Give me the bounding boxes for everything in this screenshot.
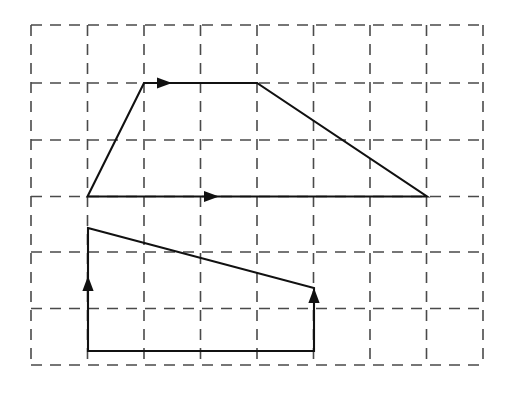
figure-root: [0, 0, 510, 403]
vector-grid-diagram: [0, 0, 510, 403]
figure-background: [0, 0, 510, 403]
